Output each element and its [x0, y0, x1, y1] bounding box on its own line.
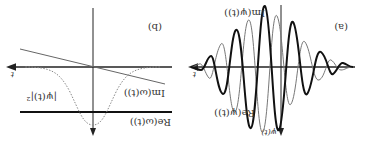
panel-a-label: (a) — [334, 22, 348, 33]
panel-b: t Re(ω(t)) Im(ω(t)) |ψ(t)|² (b) — [10, 8, 172, 132]
re-omega-label: Re(ω(t)) — [130, 117, 171, 128]
panel-b-t-label: t — [10, 70, 14, 79]
panel-b-label: (b) — [148, 22, 162, 33]
re-psi-label: Re(ψ(t)) — [214, 108, 255, 119]
im-omega-label: Im(ω(t)) — [124, 88, 165, 99]
psi-squared-label: |ψ(t)|² — [27, 91, 57, 103]
figure-canvas: t Re(ω(t)) Im(ω(t)) |ψ(t)|² (b) ψ(t) t R… — [0, 0, 365, 152]
im-psi-label: Im(ψ(t)) — [224, 8, 265, 19]
panel-a: ψ(t) t Re(ψ(t)) Im(ψ(t)) (a) — [191, 5, 355, 137]
panel-a-t-label: t — [192, 70, 196, 79]
